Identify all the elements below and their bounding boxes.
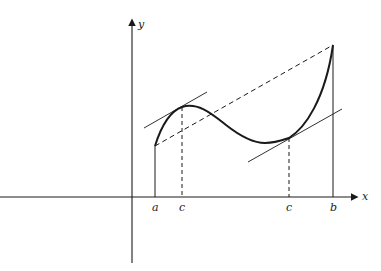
tick-label-b: b xyxy=(330,201,337,214)
tangent-line-2 xyxy=(248,109,342,162)
tick-label-a: a xyxy=(152,201,159,214)
x-axis-label: x xyxy=(362,190,369,203)
tick-label-c1: c xyxy=(179,201,185,214)
tick-label-c2: c xyxy=(286,201,292,214)
y-axis-label: y xyxy=(137,18,145,31)
mean-value-theorem-diagram: x y a c c b xyxy=(0,0,381,271)
